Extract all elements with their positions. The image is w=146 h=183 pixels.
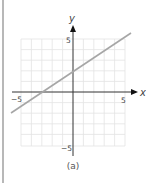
x-tick-5: 5 bbox=[121, 96, 126, 105]
y-tick-neg-5: −5 bbox=[61, 144, 72, 153]
y-axis-label: y bbox=[68, 13, 76, 24]
plotted-line bbox=[11, 33, 131, 113]
x-axis-label: x bbox=[139, 87, 146, 98]
x-axis-arrow-icon bbox=[131, 89, 138, 95]
y-axis-arrow-icon bbox=[70, 25, 76, 32]
figure-caption: (a) bbox=[0, 161, 146, 171]
x-tick-neg-5: −5 bbox=[11, 95, 22, 104]
coordinate-plane: x y −5 5 5 −5 bbox=[0, 0, 146, 183]
y-tick-5: 5 bbox=[66, 36, 71, 45]
